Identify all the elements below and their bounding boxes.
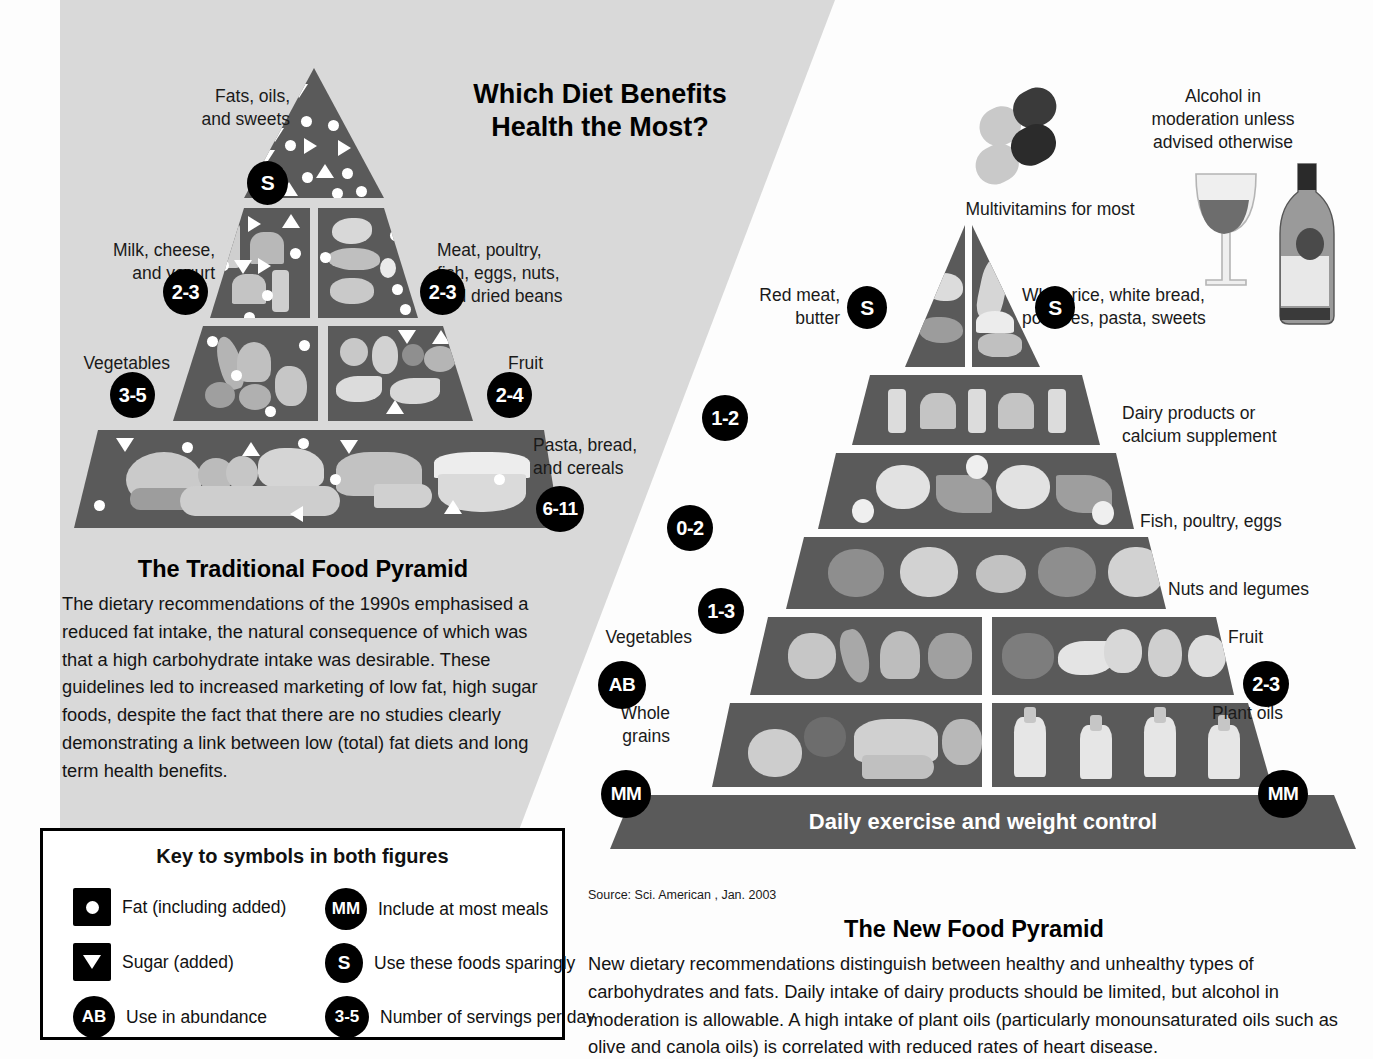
trad-label-fruit: Fruit <box>508 352 608 375</box>
new-label-dairy: Dairy products orcalcium supplement <box>1122 402 1332 448</box>
new-label-fruit: Fruit <box>1228 626 1338 649</box>
key-item-servings: 3-5 Number of servings per day <box>325 996 595 1038</box>
newpyramid-section-title: The New Food Pyramid <box>588 916 1360 943</box>
mm-symbol-icon: MM <box>325 888 367 930</box>
key-title: Key to symbols in both figures <box>43 845 562 868</box>
key-item-sugar: Sugar (added) <box>73 943 234 981</box>
new-badge-redmeat: S <box>847 286 887 329</box>
new-label-vegetables: Vegetables <box>570 626 692 649</box>
new-badge-refinedcarbs: S <box>1035 286 1075 329</box>
key-item-ab-label: Use in abundance <box>126 1007 267 1028</box>
trad-label-fats: Fats, oils,and sweets <box>160 85 290 131</box>
ab-symbol-icon: AB <box>73 996 115 1038</box>
key-item-servings-label: Number of servings per day <box>380 1007 595 1028</box>
key-item-ab: AB Use in abundance <box>73 996 267 1038</box>
trad-label-vegetables: Vegetables <box>40 352 170 375</box>
newpyramid-body-text: New dietary recommendations distinguish … <box>588 950 1363 1059</box>
new-tier-exercise-label: Daily exercise and weight control <box>809 809 1157 835</box>
trad-badge-dairy: 2-3 <box>163 269 208 315</box>
fat-symbol-icon <box>73 888 111 926</box>
trad-tier-grains <box>74 430 560 528</box>
trad-badge-fruit: 2-4 <box>487 372 532 418</box>
key-legend-box: Key to symbols in both figures Fat (incl… <box>40 828 565 1040</box>
key-item-mm-label: Include at most meals <box>378 899 548 920</box>
sugar-symbol-icon <box>73 943 111 981</box>
new-tier-exercise-band: Daily exercise and weight control <box>610 795 1356 849</box>
trad-tier-fruit <box>328 326 473 421</box>
trad-tier-dairy <box>210 208 310 318</box>
key-item-s: S Use these foods sparingly <box>325 943 575 983</box>
new-label-redmeat: Red meat,butter <box>710 284 840 330</box>
new-badge-fruit: 2-3 <box>1243 661 1289 707</box>
new-tier-redmeat <box>905 225 965 367</box>
new-tier-vegetables <box>750 617 982 695</box>
multivitamin-capsules-icon <box>960 78 1090 188</box>
trad-tier-meat <box>318 208 418 318</box>
key-item-sugar-label: Sugar (added) <box>122 952 234 973</box>
new-tier-nuts <box>786 537 1166 609</box>
new-tier-fruit <box>992 617 1234 695</box>
new-badge-nuts: 1-3 <box>698 588 744 634</box>
infographic-root: Which Diet BenefitsHealth the Most? <box>0 0 1373 1059</box>
source-attribution: Source: Sci. American , Jan. 2003 <box>588 888 776 902</box>
new-tier-wholegrains <box>712 703 982 787</box>
new-label-nuts: Nuts and legumes <box>1168 578 1368 601</box>
key-item-fat: Fat (including added) <box>73 888 286 926</box>
key-item-s-label: Use these foods sparingly <box>374 953 575 974</box>
traditional-body-text: The dietary recommendations of the 1990s… <box>62 590 562 785</box>
new-tier-dairy <box>852 375 1100 445</box>
s-symbol-icon: S <box>325 943 363 983</box>
key-item-mm: MM Include at most meals <box>325 888 548 930</box>
servings-symbol-icon: 3-5 <box>325 996 369 1038</box>
alcohol-caption: Alcohol inmoderation unlessadvised other… <box>1118 85 1328 154</box>
trad-tier-vegetables <box>173 326 318 421</box>
trad-badge-meat: 2-3 <box>420 269 465 315</box>
key-item-fat-label: Fat (including added) <box>122 897 286 918</box>
new-tier-fishpoultry <box>818 453 1134 529</box>
new-badge-fishpoultry: 0-2 <box>667 505 713 551</box>
traditional-section-title: The Traditional Food Pyramid <box>73 556 533 583</box>
trad-badge-grains: 6-11 <box>536 486 584 532</box>
new-badge-dairy: 1-2 <box>702 395 748 441</box>
new-label-plantoils: Plant oils <box>1212 702 1342 725</box>
multivitamin-caption: Multivitamins for most <box>930 198 1170 221</box>
trad-badge-vegetables: 3-5 <box>110 372 155 418</box>
trad-badge-fats: S <box>247 161 288 205</box>
new-badge-wholegrains: MM <box>601 770 651 818</box>
new-badge-plantoils: MM <box>1258 770 1308 818</box>
new-badge-vegetables: AB <box>598 661 646 709</box>
new-label-fishpoultry: Fish, poultry, eggs <box>1140 510 1360 533</box>
